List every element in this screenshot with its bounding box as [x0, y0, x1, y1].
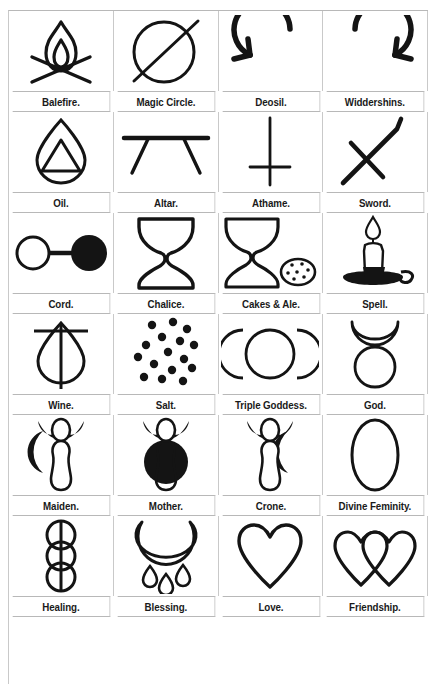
symbol-cell-god[interactable] [323, 314, 428, 394]
symbol-cell-cord[interactable] [9, 213, 114, 293]
symbol-row: Cord. Chalice. Cakes & Ale. Spell. [9, 213, 428, 314]
symbol-cell-friendship[interactable] [323, 516, 428, 596]
symbol-cell-spell[interactable] [323, 213, 428, 293]
symbol-label: Magic Circle. [117, 91, 214, 112]
symbol-label: Balefire. [13, 91, 110, 112]
symbol-cell-divine-feminity[interactable] [323, 415, 428, 495]
symbol-cell-love[interactable] [219, 516, 324, 596]
balefire-icon [18, 16, 104, 86]
symbol-cell-balefire[interactable] [9, 11, 114, 91]
symbol-cell-crone[interactable] [219, 415, 324, 495]
symbol-label: God. [327, 394, 424, 415]
symbol-cell-widdershins[interactable] [323, 11, 428, 91]
symbol-label: Triple Goddess. [222, 394, 319, 415]
symbol-label: Crone. [222, 495, 319, 516]
oil-icon [26, 115, 96, 189]
symbol-label: Salt. [117, 394, 214, 415]
cakes-and-ale-icon [222, 215, 318, 291]
symbol-cell-maiden[interactable] [9, 415, 114, 495]
symbol-cell-athame[interactable] [219, 112, 324, 192]
symbol-row: Healing. Blessing. Love. Friendship. [9, 516, 428, 617]
cord-icon [13, 230, 109, 276]
symbol-label: Spell. [327, 293, 424, 314]
triple-goddess-icon [221, 324, 319, 384]
love-heart-icon [233, 521, 307, 591]
symbol-cell-triple-goddess[interactable] [219, 314, 324, 394]
symbol-label: Wine. [13, 394, 110, 415]
deosil-icon [228, 15, 312, 87]
symbol-cell-chalice[interactable] [114, 213, 219, 293]
symbol-cell-sword[interactable] [323, 112, 428, 192]
symbol-cell-cakes-and-ale[interactable] [219, 213, 324, 293]
symbol-label: Maiden. [13, 495, 110, 516]
symbol-cell-magic-circle[interactable] [114, 11, 219, 91]
maiden-icon [25, 417, 97, 493]
symbol-cell-oil[interactable] [9, 112, 114, 192]
athame-icon [240, 115, 300, 189]
symbol-label: Chalice. [117, 293, 214, 314]
symbol-label: Cord. [13, 293, 110, 314]
symbol-row: Wine. Salt. Triple Goddess. God. [9, 314, 428, 415]
symbol-label: Friendship. [327, 596, 424, 617]
chalice-icon [133, 215, 199, 291]
symbol-cell-salt[interactable] [114, 314, 219, 394]
symbol-chart-grid: Balefire. Magic Circle. Deosil. Widdersh… [8, 10, 428, 684]
symbol-row: Balefire. Magic Circle. Deosil. Widdersh… [9, 11, 428, 112]
blessing-icon [128, 518, 204, 594]
sword-icon [335, 115, 415, 189]
wine-icon [24, 317, 98, 391]
friendship-hearts-icon [327, 523, 423, 589]
symbol-cell-deosil[interactable] [219, 11, 324, 91]
symbol-row: Oil. Altar. Athame. Sword. [9, 112, 428, 213]
spell-candle-icon [329, 215, 421, 291]
symbol-cell-healing[interactable] [9, 516, 114, 596]
divine-feminity-icon [345, 417, 405, 493]
healing-icon [33, 518, 89, 594]
symbol-row: Maiden. Mother. Crone. Divine Feminity. [9, 415, 428, 516]
symbol-cell-wine[interactable] [9, 314, 114, 394]
widdershins-icon [333, 15, 417, 87]
god-horned-icon [343, 317, 407, 391]
symbol-label: Healing. [13, 596, 110, 617]
symbol-label: Athame. [222, 192, 319, 213]
symbol-label: Sword. [327, 192, 424, 213]
crone-icon [234, 417, 306, 493]
symbol-label: Deosil. [222, 91, 319, 112]
symbol-label: Mother. [117, 495, 214, 516]
symbol-label: Divine Feminity. [327, 495, 424, 516]
mother-icon [130, 417, 202, 493]
symbol-label: Cakes & Ale. [222, 293, 319, 314]
symbol-label: Blessing. [117, 596, 214, 617]
symbol-cell-blessing[interactable] [114, 516, 219, 596]
symbol-cell-altar[interactable] [114, 112, 219, 192]
symbol-label: Widdershins. [327, 91, 424, 112]
magic-circle-icon [126, 15, 206, 87]
symbol-label: Oil. [13, 192, 110, 213]
symbol-label: Altar. [117, 192, 214, 213]
salt-icon [126, 317, 206, 391]
symbol-cell-mother[interactable] [114, 415, 219, 495]
altar-icon [120, 123, 212, 181]
symbol-label: Love. [222, 596, 319, 617]
